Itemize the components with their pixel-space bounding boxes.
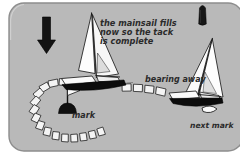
annotation-next-mark: next mark [190,121,235,130]
buoy-icon-top [199,6,207,26]
annotation-mainsail-line3: is complete [100,36,154,46]
annotation-mark: mark [72,111,96,120]
sailing-diagram: the mainsail fills now so the tack is co… [0,0,240,161]
diagram-canvas: the mainsail fills now so the tack is co… [0,0,240,161]
annotation-bearing-away: bearing away [145,75,206,84]
